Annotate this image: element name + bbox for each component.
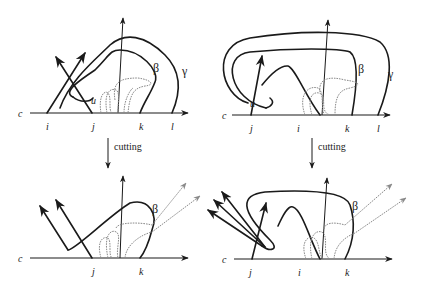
zigzag-arc [278, 207, 320, 259]
label-beta: β [352, 199, 358, 213]
grey-curve [106, 89, 119, 113]
point-label: i [297, 123, 300, 134]
zigzag-arc [262, 66, 320, 115]
arc-arrow [56, 200, 92, 258]
panel-top-right: c j i k l β γ u [222, 20, 394, 134]
arc-arrow [208, 210, 262, 246]
grey-arrow [334, 198, 406, 259]
point-label: i [46, 121, 49, 132]
grey-curve [320, 78, 358, 115]
axis-label-c: c [222, 254, 227, 265]
label-gamma: γ [181, 64, 188, 78]
intersection-label-u: u [91, 95, 96, 106]
point-label: l [171, 121, 174, 132]
point-label: j [90, 121, 95, 132]
point-label: j [248, 123, 253, 134]
axis-label-c: c [18, 253, 23, 264]
diagram-canvas: c i j k l β γ u c j i k l [0, 0, 428, 291]
vertical-arc-arrow [322, 20, 328, 115]
grey-curve [304, 237, 323, 259]
axis-label-c: c [222, 110, 227, 121]
grey-curve [106, 231, 118, 258]
arc-arrow [47, 53, 85, 113]
panel-top-left: c i j k l β γ u [18, 18, 188, 132]
point-label: k [345, 267, 350, 278]
grey-curve [303, 87, 325, 115]
cutting-arrow-left: cutting [108, 138, 142, 168]
label-gamma: γ [387, 67, 394, 81]
axis-label-c: c [18, 108, 23, 119]
curve-beta [68, 202, 154, 258]
arc-arrow [222, 192, 265, 247]
arc-arrow [214, 200, 265, 247]
arc-arrow [252, 203, 266, 259]
cutting-label: cutting [114, 141, 142, 152]
panel-bottom-left: c j k β [18, 176, 200, 277]
vertical-arc-arrow [120, 176, 123, 258]
point-label: j [90, 266, 95, 277]
point-label: j [247, 267, 252, 278]
grey-curve [99, 238, 112, 258]
point-label: i [298, 267, 301, 278]
cutting-label: cutting [318, 141, 346, 152]
curve-beta [247, 191, 353, 259]
point-label: l [377, 123, 380, 134]
curve-beta-tail [266, 98, 273, 108]
intersection-label-u: u [250, 98, 255, 109]
grey-arrow [125, 196, 200, 258]
panel-bottom-right: c j i k β [208, 178, 406, 278]
point-label: k [139, 266, 144, 277]
vertical-arc-arrow [322, 178, 327, 259]
label-beta: β [153, 61, 159, 75]
point-label: k [139, 121, 144, 132]
label-beta: β [152, 202, 158, 216]
cutting-arrow-right: cutting [312, 138, 346, 168]
label-beta: β [358, 62, 364, 76]
curve-gamma [223, 32, 389, 115]
point-label: k [345, 123, 350, 134]
curve-beta [70, 50, 156, 113]
